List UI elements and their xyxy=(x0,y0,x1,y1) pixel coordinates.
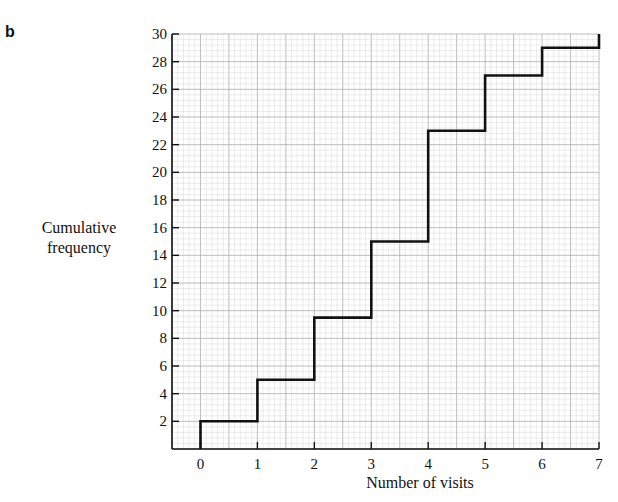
y-tick-label: 16 xyxy=(152,220,168,236)
y-tick-label: 22 xyxy=(152,137,167,153)
y-tick-label: 18 xyxy=(152,192,167,208)
y-tick-label: 20 xyxy=(152,164,167,180)
x-tick-label: 4 xyxy=(424,456,432,472)
y-tick-label: 4 xyxy=(160,386,168,402)
y-tick-label: 14 xyxy=(152,247,168,263)
x-tick-label: 1 xyxy=(254,456,262,472)
y-tick-label: 24 xyxy=(152,109,168,125)
x-tick-label: 2 xyxy=(311,456,319,472)
y-tick-label: 2 xyxy=(160,413,168,429)
x-tick-label: 3 xyxy=(368,456,376,472)
y-tick-label: 26 xyxy=(152,81,168,97)
x-tick-label: 6 xyxy=(538,456,546,472)
y-tick-label: 30 xyxy=(152,26,167,42)
y-tick-label: 12 xyxy=(152,275,167,291)
x-tick-label: 7 xyxy=(595,456,603,472)
y-tick-label: 10 xyxy=(152,303,167,319)
x-tick-label: 0 xyxy=(197,456,205,472)
tick-labels: 2468101214161820222426283001234567 xyxy=(152,26,603,472)
x-tick-label: 5 xyxy=(481,456,489,472)
step-chart: 2468101214161820222426283001234567 xyxy=(0,0,618,502)
y-tick-label: 8 xyxy=(160,330,168,346)
y-tick-label: 6 xyxy=(160,358,168,374)
y-tick-label: 28 xyxy=(152,54,167,70)
